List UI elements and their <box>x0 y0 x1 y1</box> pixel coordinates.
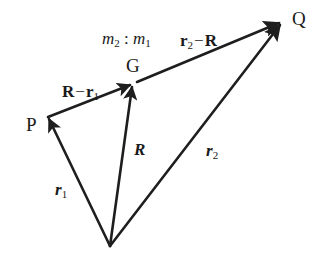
point-label-g: G <box>126 55 140 76</box>
label-R: R <box>133 140 145 159</box>
point-label-p: P <box>26 114 37 135</box>
label-r2-minus-R: r2−R <box>180 31 218 51</box>
label-R-minus-r1: R−r1 <box>62 82 99 102</box>
center-of-mass-vector-diagram: P G Q m2 : m1 R−r1 r2−R R r2 r1 <box>0 0 319 266</box>
mass-ratio-label: m2 : m1 <box>102 29 151 49</box>
label-r2: r2 <box>206 141 218 161</box>
point-label-q: Q <box>292 8 306 29</box>
label-r1: r1 <box>55 180 67 200</box>
